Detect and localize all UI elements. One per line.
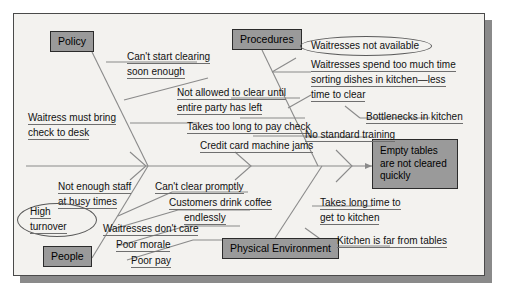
cause-text-line1: Poor pay (131, 254, 171, 268)
highlight-high-turnover[interactable]: High turnover (30, 205, 67, 235)
cause-text-line2: entire party has left (177, 101, 262, 115)
cause-not-allowed-to-clear[interactable]: Not allowed to clear until entire party … (177, 86, 286, 116)
cause-text-line1: Not allowed to clear until (177, 86, 286, 100)
cause-kitchen-is-far-from-tables[interactable]: Kitchen is far from tables (337, 234, 447, 249)
cause-poor-morale[interactable]: Poor morale (116, 238, 170, 253)
cause-text-line1: Can't start clearing (127, 50, 210, 64)
cause-credit-card-machine-jams[interactable]: Credit card machine jams (200, 139, 313, 154)
category-box-people[interactable]: People (43, 246, 92, 267)
cause-text-line1: Bottlenecks in kitchen (366, 110, 463, 124)
cause-text-line1: Kitchen is far from tables (337, 234, 447, 248)
cause-text-line1: Takes long time to (320, 196, 401, 210)
effect-label-line3: quickly (380, 170, 450, 183)
cause-text-line1: Waitresses spend too much time (311, 58, 456, 72)
cause-waitresses-spend-too-much-time[interactable]: Waitresses spend too much time sorting d… (311, 58, 456, 103)
effect-label-line2: are not cleared (380, 158, 450, 171)
category-label-physical-environment: Physical Environment (230, 242, 331, 254)
cause-text-line1: Can't clear promptly (155, 180, 244, 194)
cause-text-line2: sorting dishes in kitchen—less (311, 73, 446, 87)
effect-box[interactable]: Empty tables are not cleared quickly (372, 139, 458, 189)
cause-text-line1: Poor morale (116, 238, 170, 252)
effect-label-line1: Empty tables (380, 145, 450, 158)
cause-cant-clear-promptly[interactable]: Can't clear promptly (155, 180, 244, 195)
fishbone-diagram-screenshot: Policy Procedures People Physical Enviro… (0, 0, 509, 298)
cause-text-line1: Takes too long to pay check (187, 120, 310, 134)
highlight-waitresses-not-available[interactable]: Waitresses not available (311, 39, 419, 52)
cause-text-line2: soon enough (127, 65, 185, 79)
cause-takes-too-long-pay-check[interactable]: Takes too long to pay check (187, 120, 310, 135)
category-label-people: People (51, 250, 84, 262)
category-box-procedures[interactable]: Procedures (232, 29, 302, 50)
category-label-procedures: Procedures (240, 33, 294, 45)
cause-text-line1: Customers drink coffee (169, 196, 272, 210)
cause-takes-long-time-to-get-to-kitchen[interactable]: Takes long time to get to kitchen (320, 196, 401, 226)
cause-customers-drink-coffee[interactable]: Customers drink coffee endlessly (169, 196, 272, 226)
cause-bottlenecks-in-kitchen[interactable]: Bottlenecks in kitchen (366, 110, 463, 125)
highlight-text-line2: turnover (30, 220, 67, 234)
cause-text-line2: check to desk (28, 126, 89, 140)
cause-text-line2: endlessly (184, 211, 226, 225)
cause-no-standard-training[interactable]: No standard training (305, 128, 395, 143)
cause-text-line1: Not enough staff (58, 180, 131, 194)
category-box-physical-environment[interactable]: Physical Environment (222, 238, 339, 259)
category-box-policy[interactable]: Policy (50, 31, 94, 52)
category-label-policy: Policy (58, 35, 86, 47)
cause-cant-start-clearing[interactable]: Can't start clearing soon enough (127, 50, 210, 80)
cause-text-line1: Waitress must bring (28, 111, 116, 125)
diagram-canvas: Policy Procedures People Physical Enviro… (0, 0, 509, 298)
cause-text-line2: get to kitchen (320, 211, 379, 225)
cause-text-line1: Credit card machine jams (200, 139, 313, 153)
highlight-text: Waitresses not available (311, 40, 419, 51)
cause-text-line3: time to clear (311, 88, 365, 102)
highlight-text-line1: High (30, 205, 51, 219)
cause-poor-pay[interactable]: Poor pay (131, 254, 171, 269)
cause-text-line1: No standard training (305, 128, 395, 142)
cause-waitress-must-bring-check[interactable]: Waitress must bring check to desk (28, 111, 116, 141)
